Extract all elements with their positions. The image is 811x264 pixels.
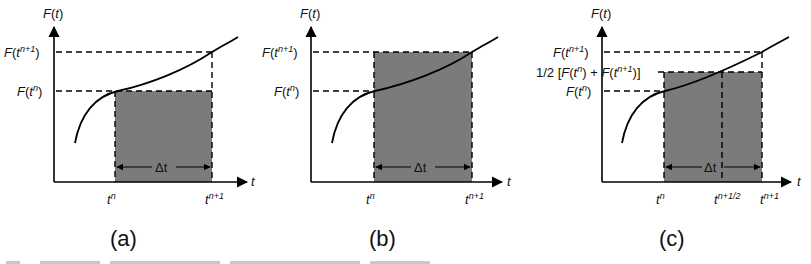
tick-label-tn1: tn+1 [465, 191, 484, 207]
x-axis-label: t [797, 174, 802, 189]
label-f-midpoint: 1/2 [F(tn) + F(tn+1)] [536, 64, 641, 80]
y-axis-label: F(t) [300, 6, 320, 21]
x-axis-label: t [251, 174, 256, 189]
tick-label-tn1: tn+1 [760, 191, 779, 207]
delta-t-label: Δt [155, 160, 168, 175]
tick-label-tn: tn [656, 191, 665, 207]
label-f-tn1: F(tn+1) [553, 44, 589, 60]
delta-t-label: Δt [704, 160, 717, 175]
label-f-tn1: F(tn+1) [262, 44, 298, 60]
tick-label-tmid: tn+1/2 [714, 191, 740, 207]
label-f-tn: F(tn) [274, 83, 299, 99]
panel-caption-a: (a) [110, 226, 137, 251]
panel-c: Δt F(t) t F(tn+1) 1/2 [F(tn) + F(tn+1)] … [536, 6, 802, 251]
delta-t-label: Δt [414, 160, 427, 175]
x-axis-label: t [507, 174, 512, 189]
tick-label-tn: tn [107, 191, 116, 207]
tick-label-tn: tn [366, 191, 375, 207]
integration-schemes-diagram: Δt F(t) t F(tn+1) F(tn) tn tn+1 (a) Δt F… [0, 0, 811, 264]
panel-caption-c: (c) [659, 226, 685, 251]
label-f-tn: F(tn) [17, 83, 42, 99]
label-f-tn1: F(tn+1) [4, 44, 40, 60]
cropped-caption-strip [0, 258, 811, 264]
label-f-tn: F(tn) [566, 83, 591, 99]
panel-caption-b: (b) [369, 226, 396, 251]
panel-a: Δt F(t) t F(tn+1) F(tn) tn tn+1 (a) [4, 6, 256, 251]
tick-label-tn1: tn+1 [205, 191, 224, 207]
y-axis-label: F(t) [591, 6, 611, 21]
y-axis-label: F(t) [43, 6, 63, 21]
panel-b: Δt F(t) t F(tn+1) F(tn) tn tn+1 (b) [262, 6, 512, 251]
